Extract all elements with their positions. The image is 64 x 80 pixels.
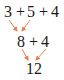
arrow-4-to-12-icon — [36, 49, 46, 60]
arrow-8-to-12-icon — [22, 49, 28, 60]
arrows — [0, 0, 64, 80]
arrow-3-to-8-icon — [9, 20, 17, 31]
arrow-5-to-8-icon — [22, 20, 30, 31]
